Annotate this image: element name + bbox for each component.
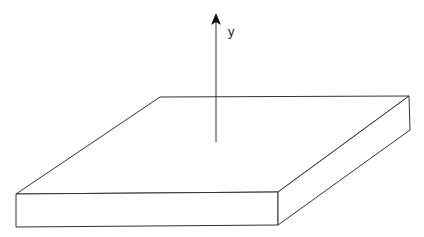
slab-front-face	[16, 192, 278, 227]
diagram-canvas: y	[0, 0, 424, 237]
slab-drawing	[0, 0, 424, 237]
y-axis-label: y	[228, 24, 235, 39]
